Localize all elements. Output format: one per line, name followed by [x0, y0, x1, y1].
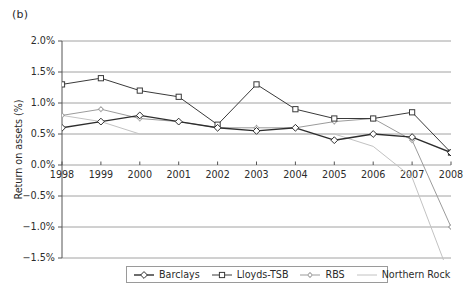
x-tick-label: 2001 [166, 169, 190, 180]
y-tick-label: −1.5% [23, 252, 55, 263]
chart-legend: BarclaysLloyds-TSBRBSNorthern Rock [126, 266, 388, 283]
data-point-marker [59, 112, 65, 118]
x-tick-label: 2004 [283, 169, 307, 180]
data-point-marker [448, 224, 454, 230]
data-point-marker [137, 88, 142, 93]
data-point-marker [98, 106, 104, 112]
series-line [62, 78, 451, 152]
y-tick-label: 2.0% [31, 35, 55, 46]
data-point-marker [59, 82, 64, 87]
data-point-marker [98, 76, 103, 81]
legend-entry-label: Northern Rock [382, 270, 451, 280]
legend-entry-label: Barclays [159, 270, 200, 280]
y-tick-label: −0.5% [23, 190, 55, 201]
legend-entry-label: Lloyds-TSB [237, 270, 289, 280]
legend-swatch-icon [299, 270, 321, 280]
y-tick-label: −1.0% [23, 221, 55, 232]
legend-entry-northern-rock[interactable]: Northern Rock [356, 270, 451, 280]
x-tick-label: 2008 [439, 169, 463, 180]
data-point-marker [370, 131, 377, 138]
data-point-marker [409, 134, 416, 141]
x-tick-label: 1999 [89, 169, 113, 180]
data-point-marker [176, 94, 181, 99]
y-tick-label: 1.0% [31, 97, 55, 108]
x-tick-label: 2003 [244, 169, 268, 180]
x-tick-label: 2006 [361, 169, 385, 180]
figure-panel-b: (b) 2.0%1.5%1.0%0.5%0.0%−0.5%−1.0%−1.5%1… [0, 0, 470, 294]
data-point-marker [293, 107, 298, 112]
legend-entry-label: RBS [325, 270, 344, 280]
y-axis-title: Return on assets (%) [13, 99, 24, 199]
y-tick-label: 1.5% [31, 66, 55, 77]
data-point-marker [253, 128, 260, 135]
data-point-marker [98, 118, 105, 125]
y-tick-label: 0.5% [31, 128, 55, 139]
data-point-marker [175, 118, 182, 125]
series-lloyds-tsb [59, 76, 453, 156]
data-point-marker [371, 116, 376, 121]
legend-swatch-icon [211, 270, 233, 280]
series-northern-rock [62, 115, 451, 279]
x-tick-label: 2000 [128, 169, 152, 180]
line-chart: 2.0%1.5%1.0%0.5%0.0%−0.5%−1.0%−1.5%19981… [0, 0, 470, 294]
legend-entry-rbs[interactable]: RBS [299, 270, 344, 280]
series-line [62, 115, 451, 279]
legend-swatch-icon [356, 270, 378, 280]
data-point-marker [59, 124, 66, 131]
legend-swatch-icon [133, 270, 155, 280]
x-tick-label: 2002 [205, 169, 229, 180]
data-point-marker [332, 116, 337, 121]
data-point-marker [254, 82, 259, 87]
data-point-marker [331, 137, 338, 144]
x-tick-label: 1998 [50, 169, 74, 180]
legend-entry-lloyds-tsb[interactable]: Lloyds-TSB [211, 270, 289, 280]
data-point-marker [292, 124, 299, 131]
data-point-marker [410, 110, 415, 115]
x-tick-label: 2005 [322, 169, 346, 180]
legend-entry-barclays[interactable]: Barclays [133, 270, 200, 280]
